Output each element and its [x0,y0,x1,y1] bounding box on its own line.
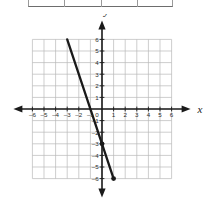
x-tick-label--3: –3 [64,111,71,118]
x-axis-label: x [197,103,203,115]
y-tick-label--5: –5 [92,163,99,170]
y-tick-label-1: 1 [95,94,99,101]
y-axis-label: y [103,14,109,17]
partial-table [28,0,173,7]
y-tick-label-3: 3 [95,71,99,78]
axes [13,20,190,197]
y-tick-label--6: –6 [92,175,99,182]
x-tick-label--4: –4 [52,111,59,118]
coordinate-graph: –6–5–4–3–2–1123456654321–1–2–3–4–5–60xy [0,14,203,209]
table-divider-2 [101,0,102,7]
x-tick-label-6: 6 [170,111,174,118]
x-tick-label-4: 4 [147,111,151,118]
x-tick-label--5: –5 [41,111,48,118]
series-0-line [67,39,116,181]
y-tick-label--3: –3 [92,140,99,147]
y-tick-label-6: 6 [95,36,99,43]
graph-svg: –6–5–4–3–2–1123456654321–1–2–3–4–5–60xy [0,14,203,209]
y-tick-label-4: 4 [95,59,99,66]
x-tick-label-3: 3 [135,111,139,118]
x-tick-label-1: 1 [112,111,116,118]
x-tick-label--2: –2 [75,111,82,118]
table-divider-3 [137,0,138,7]
x-tick-label-2: 2 [123,111,127,118]
x-tick-label-5: 5 [158,111,162,118]
x-tick-label--6: –6 [29,111,36,118]
origin-label: 0 [95,111,99,118]
y-tick-label-2: 2 [95,82,99,89]
y-tick-label-5: 5 [95,47,99,54]
table-divider-1 [64,0,65,7]
y-tick-label--4: –4 [92,152,99,159]
